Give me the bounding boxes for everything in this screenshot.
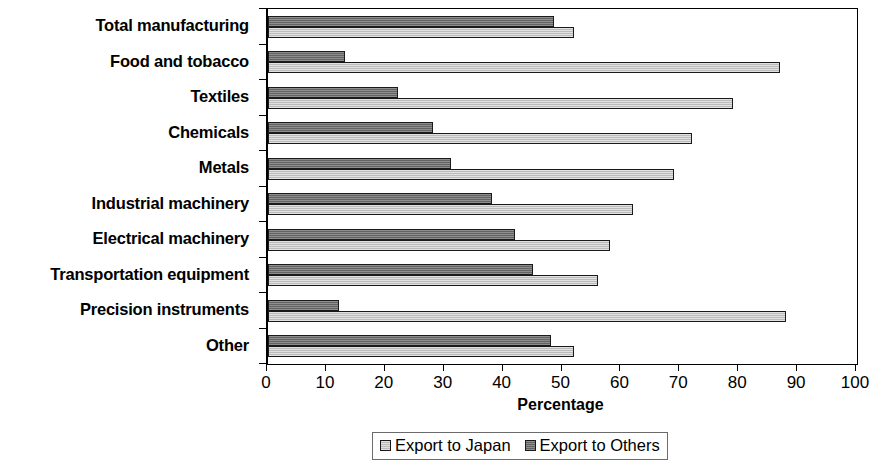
bar-group: [268, 116, 857, 152]
bar-export-to-others: [268, 16, 554, 27]
bar-export-to-japan: [268, 98, 733, 109]
legend-label: Export to Others: [540, 436, 660, 455]
x-axis-tick: [561, 364, 562, 371]
bar-export-to-japan: [268, 133, 692, 144]
bar-export-to-others: [268, 158, 451, 169]
bar-export-to-others: [268, 300, 339, 311]
y-axis-label: Metals: [0, 150, 258, 186]
x-axis-tick-labels: 0102030405060708090100: [266, 373, 855, 395]
x-axis-tick: [737, 364, 738, 371]
x-axis-tick: [678, 364, 679, 371]
x-axis-tick-label: 50: [551, 373, 570, 393]
bar-export-to-japan: [268, 204, 633, 215]
x-axis-tick-label: 70: [669, 373, 688, 393]
bar-export-to-others: [268, 122, 433, 133]
x-axis-tick-label: 80: [728, 373, 747, 393]
x-axis-tick-label: 0: [261, 373, 270, 393]
y-axis-label: Other: [0, 328, 258, 364]
bar-group: [268, 9, 857, 45]
legend-entry: Export to Japan: [380, 436, 511, 455]
x-axis-tick: [325, 364, 326, 371]
plot-area: [266, 8, 858, 365]
x-axis-tick-label: 10: [315, 373, 334, 393]
x-axis-tick: [619, 364, 620, 371]
x-axis-tick-label: 20: [374, 373, 393, 393]
legend-entry: Export to Others: [525, 436, 660, 455]
bar-export-to-others: [268, 193, 492, 204]
bar-export-to-japan: [268, 240, 610, 251]
x-axis-tick-label: 90: [787, 373, 806, 393]
x-axis-title: Percentage: [266, 396, 855, 414]
bar-export-to-others: [268, 51, 345, 62]
x-axis-tick-label: 100: [841, 373, 869, 393]
bar-group: [268, 293, 857, 329]
legend-swatch-others: [525, 440, 536, 451]
bar-export-to-others: [268, 264, 533, 275]
legend-label: Export to Japan: [395, 436, 511, 455]
bar-export-to-japan: [268, 275, 598, 286]
bar-group: [268, 258, 857, 294]
bar-export-to-japan: [268, 346, 574, 357]
y-axis-label: Precision instruments: [0, 292, 258, 328]
chart-legend: Export to JapanExport to Others: [372, 432, 668, 460]
bar-group: [268, 187, 857, 223]
x-axis-tick-label: 60: [610, 373, 629, 393]
y-axis-label: Chemicals: [0, 115, 258, 151]
x-axis-tick: [502, 364, 503, 371]
bar-export-to-others: [268, 229, 515, 240]
bar-export-to-japan: [268, 311, 786, 322]
bar-group: [268, 222, 857, 258]
bar-export-to-japan: [268, 27, 574, 38]
y-axis-category-labels: Total manufacturing Food and tobacco Tex…: [0, 8, 258, 363]
bar-export-to-japan: [268, 169, 674, 180]
x-axis-tick: [384, 364, 385, 371]
bar-export-to-others: [268, 335, 551, 346]
x-axis-tick-label: 30: [433, 373, 452, 393]
y-axis-label: Transportation equipment: [0, 257, 258, 293]
x-axis-tick-label: 40: [492, 373, 511, 393]
bars-container: [268, 9, 857, 364]
bar-export-to-others: [268, 87, 398, 98]
legend-swatch-japan: [380, 440, 391, 451]
x-axis-tick: [796, 364, 797, 371]
y-axis-label: Food and tobacco: [0, 44, 258, 80]
bar-group: [268, 45, 857, 81]
y-axis-label: Electrical machinery: [0, 221, 258, 257]
x-axis-tick: [855, 364, 856, 371]
x-axis-tick: [266, 364, 267, 371]
bar-group: [268, 329, 857, 365]
bar-group: [268, 151, 857, 187]
x-axis-tick: [443, 364, 444, 371]
bar-group: [268, 80, 857, 116]
chart-figure: Total manufacturing Food and tobacco Tex…: [0, 0, 870, 474]
x-axis-ticks: [266, 364, 855, 371]
y-axis-label: Industrial machinery: [0, 186, 258, 222]
bar-export-to-japan: [268, 62, 780, 73]
y-axis-label: Textiles: [0, 79, 258, 115]
y-axis-label: Total manufacturing: [0, 8, 258, 44]
